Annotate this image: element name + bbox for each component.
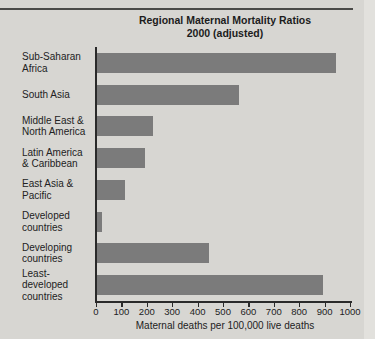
chart-row: Developingcountries	[0, 238, 375, 270]
category-label: Developingcountries	[0, 242, 96, 265]
bar-south-asia	[97, 85, 239, 105]
bar-track	[96, 79, 375, 111]
chart-row: Latin America& Caribbean	[0, 142, 375, 174]
chart-row: South Asia	[0, 79, 375, 111]
bar-track	[96, 47, 375, 79]
chart-title: Regional Maternal Mortality Ratios 2000 …	[95, 14, 355, 40]
chart-row: Developedcountries	[0, 206, 375, 238]
bar-track	[96, 142, 375, 174]
bar-track	[96, 269, 375, 301]
x-tick-label: 1000	[333, 306, 367, 317]
chart-row: Middle East &North America	[0, 111, 375, 143]
category-label: South Asia	[0, 89, 96, 101]
category-label: Middle East &North America	[0, 115, 96, 138]
bar-track	[96, 206, 375, 238]
bar-middle-east-north-america	[97, 116, 153, 136]
bar-track	[96, 174, 375, 206]
scanned-chart-page: Regional Maternal Mortality Ratios 2000 …	[0, 0, 375, 339]
chart-row: Sub-SaharanAfrica	[0, 47, 375, 79]
bar-track	[96, 238, 375, 270]
plot-area: Sub-SaharanAfricaSouth AsiaMiddle East &…	[0, 47, 375, 301]
category-label: East Asia &Pacific	[0, 178, 96, 201]
x-axis-title: Maternal deaths per 100,000 live deaths	[95, 320, 355, 331]
category-label: Latin America& Caribbean	[0, 147, 96, 170]
bar-developing-countries	[97, 243, 209, 263]
chart-row: East Asia &Pacific	[0, 174, 375, 206]
chart-title-line1: Regional Maternal Mortality Ratios	[95, 14, 355, 27]
chart-title-line2: 2000 (adjusted)	[95, 27, 355, 40]
bar-developed-countries	[97, 212, 102, 232]
y-axis-line	[95, 47, 97, 303]
top-rule-divider	[0, 8, 353, 10]
bar-sub-saharan-africa	[97, 53, 336, 73]
bar-latin-america-caribbean	[97, 148, 145, 168]
bar-east-asia-pacific	[97, 180, 125, 200]
category-label: Sub-SaharanAfrica	[0, 51, 96, 74]
chart-row: Least-developedcountries	[0, 269, 375, 301]
category-label: Least-developedcountries	[0, 268, 96, 303]
bar-track	[96, 111, 375, 143]
category-label: Developedcountries	[0, 210, 96, 233]
bar-least-developed-countries	[97, 275, 323, 295]
